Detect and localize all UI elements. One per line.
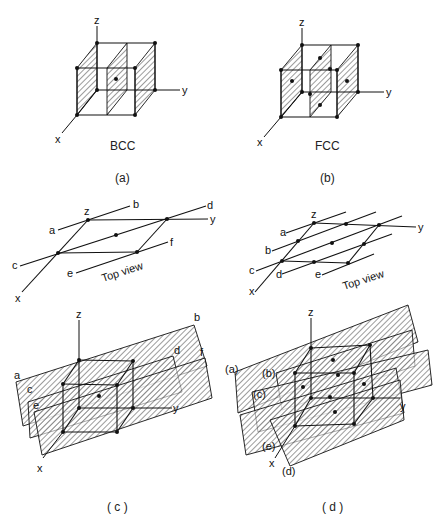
face-center-atom (308, 92, 312, 96)
top-view-label: Top view (341, 267, 385, 292)
y-axis-label: y (173, 402, 179, 414)
y-axis-label: y (418, 221, 424, 233)
z-axis-label: z (308, 306, 314, 318)
plane-label-c: (c) (253, 388, 266, 400)
plane-label-c: c (27, 383, 33, 395)
z-axis-label: z (84, 205, 90, 217)
face-center-atom (345, 79, 349, 83)
figure-canvas: z y x BCC (a) (0, 0, 442, 530)
trace-label-a: a (49, 224, 56, 236)
face-center-atom (290, 79, 294, 83)
z-axis-label: z (299, 16, 305, 28)
x-axis-label: x (257, 136, 263, 148)
plane-label-d: d (174, 344, 180, 356)
trace-label-f: f (170, 236, 174, 248)
trace-label-b: b (133, 198, 139, 210)
top-view-d: z y x a b c d e Top view (249, 208, 424, 297)
x-axis-label: x (269, 457, 275, 469)
z-axis-label: z (311, 208, 317, 220)
trace-label-d: d (207, 199, 213, 211)
panel-caption-b: (b) (320, 171, 335, 185)
face-center-atom (328, 67, 332, 71)
panel-c-planes: z y x a b c d e f ( c ) (14, 308, 212, 514)
trace-label-a: a (280, 226, 287, 238)
panel-a-bcc: z y x BCC (a) (55, 14, 188, 185)
top-view-c: z y x a b c d e f Top view (12, 198, 216, 304)
face-center-atom (336, 373, 340, 377)
x-axis-label: x (249, 285, 255, 297)
trace-label-c: c (249, 264, 255, 276)
panel-caption-a: (a) (115, 171, 130, 185)
trace-label-e: e (67, 267, 73, 279)
face-center-atom (331, 358, 335, 362)
plane-label-a: a (14, 369, 21, 381)
x-axis-label: x (37, 462, 43, 474)
trace-label-b: b (265, 244, 271, 256)
x-axis (264, 117, 281, 137)
body-center-atom (97, 394, 101, 398)
panel-caption-d: ( d ) (322, 500, 343, 514)
trace-label-d: d (276, 268, 282, 280)
y-axis-label: y (182, 84, 188, 96)
plane-label-b: b (194, 311, 200, 323)
plane-label-b: (b) (262, 367, 275, 379)
x-axis (62, 115, 77, 133)
plane-label-e: (e) (262, 440, 275, 452)
y-axis-label: y (386, 86, 392, 98)
body-center-atom (114, 77, 118, 81)
face-center-atom (333, 410, 337, 414)
plane-bcc-right (135, 43, 155, 115)
panel-d-planes: z y x (a) (b) (c) (d) (e) ( d ) (225, 305, 432, 514)
face-center-atom (328, 395, 332, 399)
structure-label-fcc: FCC (315, 139, 340, 153)
face-center-atom (318, 56, 322, 60)
plane-label-d: (d) (282, 465, 295, 477)
structure-label-bcc: BCC (110, 139, 136, 153)
panel-b-fcc: z y x FCC (b) (257, 16, 392, 185)
plane-label-e: e (33, 399, 39, 411)
top-view-d-lines (255, 212, 416, 292)
y-axis-label: y (210, 213, 216, 225)
face-center-atom (362, 382, 366, 386)
face-center-atom (301, 385, 305, 389)
trace-label-e: e (315, 268, 321, 280)
x-axis-label: x (15, 292, 21, 304)
y-axis-label: y (400, 400, 406, 412)
panel-caption-c: ( c ) (107, 500, 128, 514)
x-axis-label: x (55, 133, 61, 145)
plane-bcc-left (77, 43, 97, 115)
z-axis-label: z (94, 14, 100, 26)
z-axis-label: z (76, 308, 82, 320)
trace-label-c: c (12, 259, 18, 271)
face-center-atom (318, 103, 322, 107)
plane-label-a: (a) (225, 363, 238, 375)
